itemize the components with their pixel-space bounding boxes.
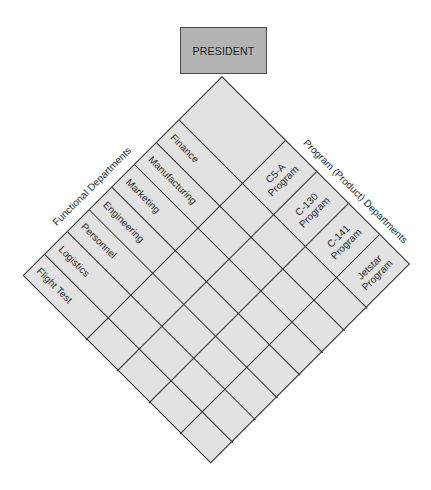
matrix-grid: Finance Manufacturing Marketing Engineer… [23, 76, 410, 463]
matrix-organization-diamond: Finance Manufacturing Marketing Engineer… [23, 76, 410, 463]
president-label: PRESIDENT [193, 45, 255, 57]
president-box: PRESIDENT [180, 27, 267, 74]
